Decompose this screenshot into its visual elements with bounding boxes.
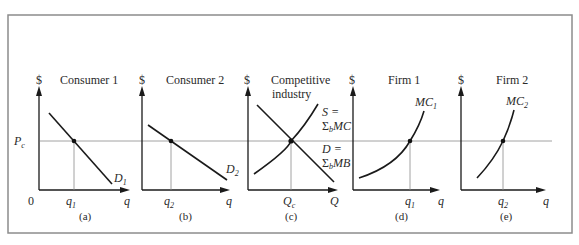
demand-label-line-1: D = <box>321 142 342 156</box>
price-label-pc: Pc <box>13 134 25 150</box>
panel-d-firm-1: $ Firm 1 MC1 q1 q (d) <box>349 73 444 223</box>
qty-label-q1: q1 <box>405 194 415 210</box>
equilibrium-point <box>169 139 174 144</box>
x-axis-label: q <box>124 194 130 208</box>
panel-title-line-2: industry <box>272 87 311 101</box>
x-axis-label: Q <box>330 194 339 208</box>
mc-curve-1 <box>359 111 424 178</box>
equilibrium-point <box>288 138 293 143</box>
x-axis-label: q <box>543 194 549 208</box>
panel-title: Firm 2 <box>496 73 528 87</box>
x-axis-arrow-icon <box>536 187 546 193</box>
mc-curve-2 <box>477 110 514 178</box>
y-axis-arrow-icon <box>458 86 464 96</box>
market-equilibrium-diagram: Pc 0 $ Consumer 1 D1 q1 q (a) $ Consumer… <box>0 0 579 245</box>
panel-e-firm-2: $ Firm 2 MC2 q2 q (e) <box>458 73 549 223</box>
demand-label-line-2: ΣbMB <box>322 156 351 171</box>
dollar-label: $ <box>458 73 464 87</box>
supply-label-line-2: ΣbMC <box>322 119 352 134</box>
panel-title: Firm 1 <box>388 73 420 87</box>
supply-curve <box>254 104 318 174</box>
panel-b-consumer-2: $ Consumer 2 D2 q2 q (b) <box>139 73 239 223</box>
dollar-label: $ <box>349 73 355 87</box>
supply-label-line-1: S = <box>322 105 339 119</box>
qty-label-q1: q1 <box>66 194 76 210</box>
panel-title: Consumer 1 <box>60 73 118 87</box>
panel-c-competitive-industry: $ Competitive industry S = ΣbMC D = ΣbMB… <box>244 73 352 223</box>
x-axis-arrow-icon <box>328 187 338 193</box>
panel-label-d: (d) <box>395 210 408 223</box>
curve-label-d2: D2 <box>225 162 239 178</box>
dollar-label: $ <box>244 73 250 87</box>
y-axis-arrow-icon <box>350 86 356 96</box>
equilibrium-point <box>72 139 77 144</box>
panel-label-c: (c) <box>285 210 298 223</box>
y-axis-arrow-icon <box>245 86 251 96</box>
x-axis-arrow-icon <box>120 187 130 193</box>
curve-label-d1: D1 <box>113 171 127 187</box>
demand-curve-d2 <box>148 125 227 180</box>
origin-label: 0 <box>28 194 34 208</box>
equilibrium-point <box>408 139 413 144</box>
equilibrium-point <box>501 139 506 144</box>
y-axis-arrow-icon <box>139 86 145 96</box>
qty-label-q2: q2 <box>164 194 174 210</box>
panel-label-e: (e) <box>500 210 513 223</box>
demand-curve-d1 <box>49 113 112 184</box>
curve-label-mc1: MC1 <box>414 95 437 111</box>
panel-label-a: (a) <box>79 210 92 223</box>
dollar-label: $ <box>139 73 145 87</box>
panel-a-consumer-1: $ Consumer 1 D1 q1 q (a) <box>36 73 130 223</box>
x-axis-label: q <box>438 194 444 208</box>
x-axis-arrow-icon <box>430 187 440 193</box>
panel-title: Consumer 2 <box>166 73 224 87</box>
dollar-label: $ <box>36 73 42 87</box>
curve-label-mc2: MC2 <box>505 94 528 110</box>
qty-label-q2: q2 <box>498 194 508 210</box>
qty-label-qc: Qc <box>283 194 296 210</box>
panel-title-line-1: Competitive <box>271 73 330 87</box>
x-axis-label: q <box>226 194 232 208</box>
y-axis-arrow-icon <box>36 86 42 96</box>
panel-label-b: (b) <box>179 210 192 223</box>
x-axis-arrow-icon <box>220 187 230 193</box>
